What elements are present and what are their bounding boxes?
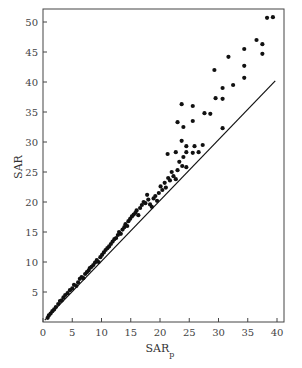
x-tick-label: 30 bbox=[212, 327, 225, 338]
x-tick-label: 20 bbox=[154, 327, 167, 338]
x-tick-label: 0 bbox=[40, 327, 46, 338]
data-point bbox=[170, 170, 174, 174]
y-tick-label: 45 bbox=[25, 47, 38, 58]
x-tick-label: 10 bbox=[95, 327, 108, 338]
data-point bbox=[175, 168, 179, 172]
data-point bbox=[164, 186, 168, 190]
x-tick-label: 15 bbox=[124, 327, 137, 338]
data-point bbox=[158, 184, 162, 188]
data-point bbox=[70, 286, 74, 290]
data-point bbox=[81, 276, 85, 280]
y-tick-label: 35 bbox=[25, 107, 38, 118]
data-point bbox=[231, 83, 235, 87]
y-tick-label: 50 bbox=[25, 17, 38, 28]
data-point bbox=[163, 181, 167, 185]
data-point bbox=[208, 112, 212, 116]
x-tick-label: 35 bbox=[241, 327, 254, 338]
y-tick-label: 10 bbox=[25, 257, 38, 268]
data-point bbox=[226, 55, 230, 59]
y-tick-label: 20 bbox=[25, 197, 38, 208]
reference-line bbox=[45, 81, 275, 320]
x-tick-label: 40 bbox=[271, 327, 284, 338]
x-axis-title-subscript: p bbox=[169, 350, 174, 359]
data-point bbox=[177, 160, 181, 164]
y-axis-title: SAR bbox=[12, 154, 25, 178]
plot-frame bbox=[43, 9, 284, 322]
data-point bbox=[260, 52, 264, 56]
data-point bbox=[125, 224, 129, 228]
data-point bbox=[180, 102, 184, 106]
data-point bbox=[74, 284, 78, 288]
data-point bbox=[135, 208, 139, 212]
y-tick-label: 25 bbox=[25, 167, 38, 178]
data-point bbox=[174, 177, 178, 181]
data-point bbox=[220, 97, 224, 101]
data-point bbox=[174, 150, 178, 154]
scatter-chart: 0510152025303540 5101520253035404550 SAR… bbox=[0, 0, 302, 368]
data-point bbox=[184, 165, 188, 169]
data-point bbox=[265, 16, 269, 20]
data-point bbox=[213, 96, 217, 100]
y-tick-label: 40 bbox=[25, 77, 38, 88]
data-point bbox=[191, 151, 195, 155]
data-point bbox=[220, 86, 224, 90]
x-tick-label: 25 bbox=[183, 327, 196, 338]
y-tick-label: 15 bbox=[25, 227, 38, 238]
data-point bbox=[180, 139, 184, 143]
y-axis-ticks: 5101520253035404550 bbox=[25, 17, 47, 298]
data-point bbox=[180, 164, 184, 168]
data-point bbox=[212, 68, 216, 72]
data-point bbox=[150, 205, 154, 209]
data-point bbox=[155, 199, 159, 203]
data-point bbox=[201, 143, 205, 147]
y-tick-label: 5 bbox=[32, 287, 38, 298]
x-axis-title: SARp bbox=[146, 342, 175, 359]
data-point bbox=[143, 201, 147, 205]
data-point bbox=[260, 42, 264, 46]
data-point bbox=[145, 193, 149, 197]
data-point bbox=[136, 213, 140, 217]
data-point bbox=[220, 126, 224, 130]
data-point bbox=[96, 260, 100, 264]
data-point bbox=[160, 188, 164, 192]
data-point bbox=[242, 76, 246, 80]
data-point bbox=[157, 191, 161, 195]
data-point bbox=[76, 280, 80, 284]
data-point bbox=[242, 64, 246, 68]
data-point bbox=[184, 144, 188, 148]
data-points bbox=[46, 15, 275, 320]
data-point bbox=[184, 150, 188, 154]
data-point bbox=[119, 232, 123, 236]
data-point bbox=[146, 198, 150, 202]
y-tick-label: 30 bbox=[25, 137, 38, 148]
data-point bbox=[202, 111, 206, 115]
data-point bbox=[168, 178, 172, 182]
data-point bbox=[191, 119, 195, 123]
data-point bbox=[192, 144, 196, 148]
data-point bbox=[153, 194, 157, 198]
data-point bbox=[197, 150, 201, 154]
data-point bbox=[175, 120, 179, 124]
data-point bbox=[271, 15, 275, 19]
data-point bbox=[166, 152, 170, 156]
data-point bbox=[181, 155, 185, 159]
data-point bbox=[242, 47, 246, 51]
x-tick-label: 5 bbox=[69, 327, 75, 338]
x-axis-ticks: 0510152025303540 bbox=[40, 318, 284, 338]
data-point bbox=[181, 125, 185, 129]
data-point bbox=[254, 38, 258, 42]
data-point bbox=[191, 104, 195, 108]
